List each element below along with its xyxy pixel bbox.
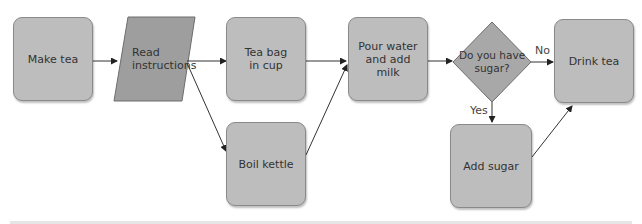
node-add-sugar: Add sugar <box>450 124 532 208</box>
node-pour-water: Pour water and add milk <box>348 17 428 101</box>
node-boil-kettle-label: Boil kettle <box>238 158 293 171</box>
node-read-instructions-label: Read instructions <box>132 46 192 72</box>
node-drink-tea: Drink tea <box>554 19 634 103</box>
flowchart-connectors <box>0 0 642 224</box>
node-read-instructions: Read instructions <box>120 17 190 101</box>
node-have-sugar-label: Do you have sugar? <box>457 49 527 75</box>
node-tea-bag: Tea bag in cup <box>226 17 306 101</box>
node-add-sugar-label: Add sugar <box>463 160 519 173</box>
node-pour-water-label: Pour water and add milk <box>356 40 420 79</box>
edge-label-no: No <box>535 44 550 57</box>
node-make-tea: Make tea <box>13 17 93 101</box>
edge-label-yes: Yes <box>470 104 488 117</box>
node-have-sugar: Do you have sugar? <box>455 42 529 82</box>
bottom-divider <box>10 221 632 224</box>
node-drink-tea-label: Drink tea <box>569 55 620 68</box>
node-tea-bag-label: Tea bag in cup <box>239 46 293 72</box>
node-boil-kettle: Boil kettle <box>226 122 306 206</box>
node-make-tea-label: Make tea <box>28 53 78 66</box>
